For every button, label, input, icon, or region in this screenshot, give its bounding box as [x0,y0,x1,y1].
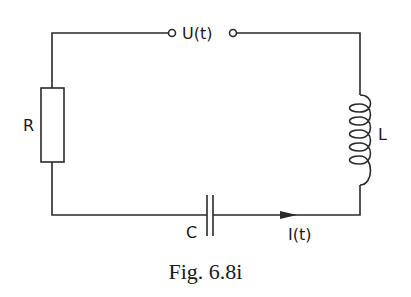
resistor: R [23,88,64,162]
resistor-icon [41,88,64,162]
current-label: I(t) [288,225,311,244]
inductor-label: L [378,125,387,144]
top-wire-right [237,33,360,95]
terminal-left-icon [169,30,176,37]
current-arrow-icon [280,211,297,219]
inductor-coil-icon [350,95,371,185]
capacitor: C [186,195,213,242]
figure-caption: Fig. 6.8i [0,259,411,285]
top-wire-left [52,33,168,88]
left-bottom-wire [52,162,207,215]
inductor: L [350,95,388,185]
capacitor-label: C [186,223,197,242]
source-label: U(t) [182,24,212,43]
terminal-right-icon [230,30,237,37]
voltage-source: U(t) [169,24,237,43]
resistor-label: R [23,116,34,135]
circuit-diagram: U(t) R C I(t) L [0,0,411,255]
bottom-wire-right: I(t) [213,185,360,244]
